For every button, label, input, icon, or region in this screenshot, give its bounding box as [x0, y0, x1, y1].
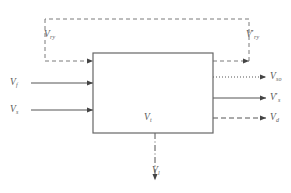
label-outlet-overflow: Vso — [270, 72, 281, 82]
label-system-volume: Vt — [144, 113, 151, 123]
label-recycle-inlet-base: V — [44, 29, 50, 39]
label-recycle-outlet: V′ry — [246, 30, 259, 40]
label-inlet-feed-sub: f — [16, 82, 18, 88]
label-recycle-outlet-sub: ry — [254, 34, 259, 40]
label-outlet-discharge: Vd — [270, 113, 279, 123]
label-outlet-product: V′s — [270, 93, 280, 103]
label-outlet-discharge-base: V — [270, 112, 276, 122]
label-outlet-discharge-sub: d — [276, 117, 279, 123]
label-inlet-feed: Vf — [10, 78, 17, 88]
label-recycle-inlet-sub: ry — [50, 34, 55, 40]
label-outlet-product-base: V — [270, 92, 276, 102]
label-inlet-solvent-base: V — [10, 104, 16, 114]
label-system-volume-sub: t — [150, 117, 152, 123]
label-outlet-bottom-base: V — [152, 165, 158, 175]
label-outlet-overflow-sub: so — [276, 76, 281, 82]
label-recycle-outlet-base: V — [246, 29, 252, 39]
label-outlet-bottom: Vl — [152, 166, 159, 176]
label-outlet-overflow-base: V — [270, 71, 276, 81]
label-outlet-bottom-sub: l — [158, 170, 160, 176]
label-recycle-inlet: Vry — [44, 30, 55, 40]
diagram-canvas: Vry V′ry Vf Vs Vso V′s Vd Vt Vl — [0, 0, 291, 193]
label-inlet-solvent: Vs — [10, 105, 18, 115]
label-inlet-solvent-sub: s — [16, 109, 18, 115]
label-inlet-feed-base: V — [10, 77, 16, 87]
label-outlet-product-sub: s — [278, 97, 280, 103]
system-boundary-box — [93, 53, 213, 133]
label-system-volume-base: V — [144, 112, 150, 122]
